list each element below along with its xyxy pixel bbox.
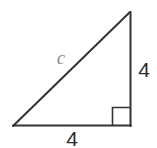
vertical-leg-label: 4 [134, 59, 154, 80]
right-angle-marker-icon [113, 108, 131, 126]
right-triangle-figure: c 4 4 [0, 0, 157, 148]
horizontal-leg-label: 4 [62, 128, 82, 148]
hypotenuse-label: c [52, 48, 70, 67]
